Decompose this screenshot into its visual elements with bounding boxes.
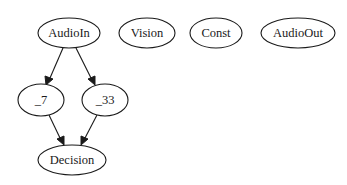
graph-canvas: AudioIn Vision Const AudioOut _7 _33 Dec… — [0, 0, 347, 185]
edge-7-to-decision — [49, 115, 64, 145]
node-const[interactable]: Const — [190, 18, 242, 48]
node-label: Decision — [50, 153, 95, 167]
node-label: AudioOut — [273, 26, 324, 40]
node-audioout[interactable]: AudioOut — [261, 18, 335, 48]
edge-audioin-to-33 — [76, 48, 95, 85]
node-label: _7 — [34, 93, 48, 107]
arrowhead-icon — [81, 136, 88, 145]
node-7[interactable]: _7 — [18, 84, 64, 116]
node-label: Vision — [131, 26, 164, 40]
node-33[interactable]: _33 — [82, 84, 128, 116]
edge-33-to-decision — [81, 115, 97, 145]
node-label: Const — [201, 26, 231, 40]
node-audioin[interactable]: AudioIn — [38, 18, 100, 48]
node-vision[interactable]: Vision — [119, 18, 175, 48]
node-label: _33 — [95, 93, 115, 107]
arrowhead-icon — [57, 136, 64, 145]
edge-audioin-to-7 — [45, 48, 63, 85]
arrowhead-icon — [45, 76, 53, 85]
node-decision[interactable]: Decision — [38, 145, 106, 175]
node-label: AudioIn — [48, 26, 90, 40]
arrowhead-icon — [88, 76, 95, 85]
